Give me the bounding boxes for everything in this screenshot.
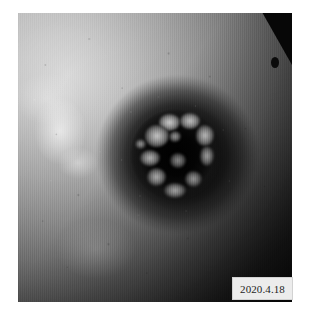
print-raster-artifact — [18, 13, 292, 302]
date-stamp: 2020.4.18 — [232, 277, 293, 300]
clinical-photograph — [18, 13, 292, 302]
corner-dot-artifact — [271, 57, 279, 68]
page-root: 2020.4.18 — [0, 0, 309, 311]
date-stamp-text: 2020.4.18 — [240, 283, 285, 295]
